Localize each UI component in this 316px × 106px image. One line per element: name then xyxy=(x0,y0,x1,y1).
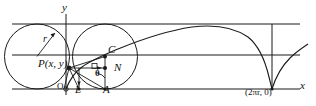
point-c-dot xyxy=(103,55,107,59)
foot-l-label: L xyxy=(75,84,81,95)
cusp-coordinate-label: (2πr, 0) xyxy=(245,88,272,97)
y-axis-label: y xyxy=(62,2,67,13)
x-axis-label: x xyxy=(300,80,305,91)
radius-label: r xyxy=(43,34,47,44)
point-n-label: N xyxy=(114,62,121,73)
radius-arrowhead xyxy=(51,33,56,38)
cycloid-curve xyxy=(66,26,272,89)
theta-label: θ xyxy=(95,69,100,78)
cycloid-figure: y x r P(x, y) C N O L A θ (2πr, 0) xyxy=(0,0,316,106)
center-c-label: C xyxy=(108,44,115,55)
point-n-dot xyxy=(103,66,107,70)
contact-a-label: A xyxy=(103,84,110,95)
point-p-dot xyxy=(67,66,72,71)
point-p-label: P(x, y) xyxy=(38,58,67,69)
segment-p-to-c xyxy=(69,57,105,69)
origin-label: O xyxy=(57,82,64,91)
